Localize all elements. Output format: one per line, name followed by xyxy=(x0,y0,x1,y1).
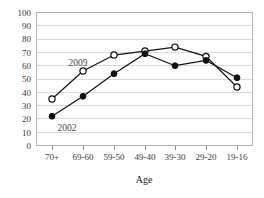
data-point xyxy=(234,84,240,90)
data-point xyxy=(234,75,240,81)
series-label-2009: 2009 xyxy=(69,58,88,68)
x-axis-title: Age xyxy=(136,174,153,185)
y-tick-label: 40 xyxy=(22,88,32,98)
y-tick-label: 70 xyxy=(22,48,32,58)
y-tick-label: 50 xyxy=(22,74,32,84)
series-label-2002: 2002 xyxy=(58,123,77,133)
data-point xyxy=(172,44,178,50)
data-point xyxy=(80,68,86,74)
data-point xyxy=(111,71,117,77)
y-tick-label: 0 xyxy=(27,141,32,151)
y-tick-label: 80 xyxy=(22,34,32,44)
data-point xyxy=(49,96,55,102)
x-tick-label: 49-40 xyxy=(135,152,156,162)
x-tick-label: 59-50 xyxy=(104,152,125,162)
data-point xyxy=(142,51,148,57)
x-tick-label: 70+ xyxy=(45,152,59,162)
x-tick-label: 69-60 xyxy=(73,152,94,162)
line-chart: 100 90 80 70 60 50 40 30 20 10 0 70+ 69-… xyxy=(0,0,264,198)
y-tick-label: 30 xyxy=(22,101,32,111)
x-tick-label: 39-30 xyxy=(165,152,186,162)
data-point xyxy=(80,93,86,99)
data-point xyxy=(111,52,117,58)
data-point xyxy=(49,113,55,119)
data-point xyxy=(203,57,209,63)
y-tick-label: 60 xyxy=(22,61,32,71)
y-tick-label: 100 xyxy=(18,8,32,18)
y-tick-label: 10 xyxy=(22,128,32,138)
x-tick-label: 19-16 xyxy=(227,152,248,162)
y-tick-label: 20 xyxy=(22,114,32,124)
x-tick-label: 29-20 xyxy=(196,152,217,162)
y-tick-label: 90 xyxy=(22,21,32,31)
data-point xyxy=(172,63,178,69)
chart-canvas: 100 90 80 70 60 50 40 30 20 10 0 70+ 69-… xyxy=(0,0,264,198)
